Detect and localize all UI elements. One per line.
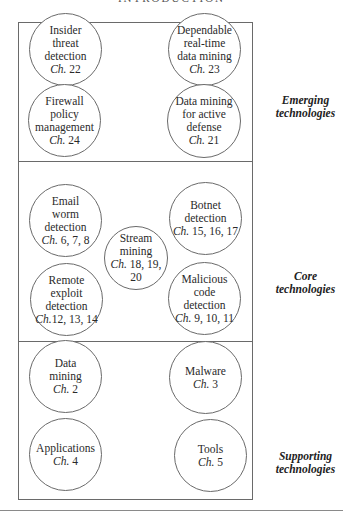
node-text: policy — [50, 108, 79, 121]
node-text: defense — [186, 121, 221, 134]
node-text: Firewall — [45, 95, 83, 108]
node-text: Email — [52, 195, 79, 208]
layer-label-emerging: Emerging technologies — [268, 94, 343, 120]
node-malware: Malware Ch. 3 — [169, 341, 242, 414]
node-applications: Applications Ch. 4 — [29, 418, 102, 491]
chapter-ref: Ch. 22 — [50, 63, 81, 76]
node-text: Malicious — [182, 273, 228, 286]
node-stream-mining: Stream mining Ch. 18, 19, 20 — [104, 226, 168, 290]
label-text: Emerging — [268, 94, 343, 107]
node-text: detection — [45, 300, 87, 313]
node-text: exploit — [51, 287, 83, 300]
node-text: management — [35, 121, 94, 134]
node-data-mining-active-defense: Data mining for active defense Ch. 21 — [167, 84, 241, 158]
node-data-mining: Data mining Ch. 2 — [29, 340, 102, 413]
chapter-ref: Ch.12, 13, 14 — [35, 313, 97, 326]
node-text: code — [194, 286, 216, 299]
chapter-ref: Ch. 5 — [198, 456, 223, 469]
node-text: Data mining — [175, 95, 232, 108]
layer-label-supporting: Supporting technologies — [268, 450, 343, 476]
node-insider-threat-detection: Insider threat detection Ch. 22 — [29, 13, 102, 86]
node-text: mining — [120, 245, 153, 258]
node-text: Insider — [50, 24, 82, 37]
chapter-ref: Ch. 9, 10, 11 — [175, 312, 234, 325]
node-text: Malware — [185, 365, 226, 378]
layer-label-core: Core technologies — [268, 270, 343, 296]
node-text: detection — [184, 212, 226, 225]
node-text: Remote — [49, 274, 85, 287]
node-email-worm-detection: Email worm detection Ch. 6, 7, 8 — [29, 184, 102, 257]
chapter-ref: Ch. 6, 7, 8 — [42, 234, 90, 247]
node-text: worm — [52, 208, 79, 221]
node-text: for active — [182, 108, 226, 121]
label-text: technologies — [268, 107, 343, 120]
node-text: Data — [55, 357, 77, 370]
node-text: data mining — [177, 50, 232, 63]
node-text: detection — [44, 221, 86, 234]
node-text: detection — [183, 299, 225, 312]
node-text: mining — [49, 370, 82, 383]
node-text: Applications — [36, 442, 95, 455]
node-tools: Tools Ch. 5 — [174, 419, 247, 492]
chapter-ref: Ch. 18, 19, 20 — [105, 258, 167, 284]
label-text: Supporting — [268, 450, 343, 463]
node-text: Botnet — [190, 199, 221, 212]
chapter-ref: Ch. 23 — [189, 63, 220, 76]
node-malicious-code-detection: Malicious code detection Ch. 9, 10, 11 — [168, 262, 241, 335]
chapter-ref: Ch. 2 — [53, 383, 78, 396]
chapter-ref: Ch. 15, 16, 17 — [173, 225, 238, 238]
node-text: threat — [52, 37, 78, 50]
layer-divider-emerging-core — [18, 161, 253, 162]
node-text: Stream — [120, 232, 153, 245]
node-text: detection — [44, 50, 86, 63]
node-dependable-realtime-data-mining: Dependable real-time data mining Ch. 23 — [168, 13, 241, 86]
node-firewall-policy-management: Firewall policy management Ch. 24 — [28, 84, 101, 157]
chapter-ref: Ch. 3 — [193, 378, 218, 391]
node-text: Tools — [198, 443, 223, 456]
node-botnet-detection: Botnet detection Ch. 15, 16, 17 — [169, 182, 242, 255]
node-text: Dependable — [177, 24, 232, 37]
page-header: INTRODUCTION — [0, 0, 343, 4]
label-text: technologies — [268, 283, 343, 296]
chapter-ref: Ch. 4 — [53, 455, 78, 468]
chapter-ref: Ch. 21 — [189, 134, 220, 147]
label-text: technologies — [268, 463, 343, 476]
chapter-ref: Ch. 24 — [49, 134, 80, 147]
page-rule — [0, 510, 343, 511]
label-text: Core — [268, 270, 343, 283]
node-remote-exploit-detection: Remote exploit detection Ch.12, 13, 14 — [30, 263, 103, 336]
node-text: real-time — [184, 37, 226, 50]
